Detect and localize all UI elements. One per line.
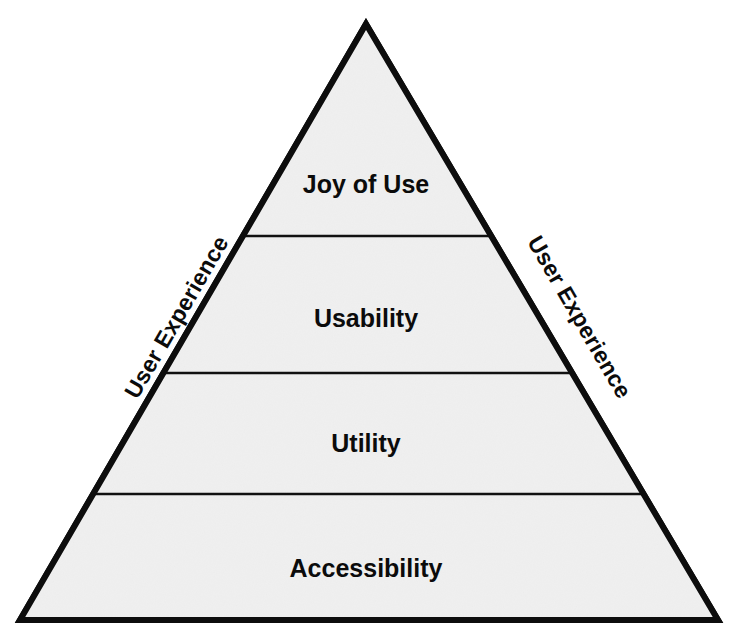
tier-label-joy-of-use: Joy of Use [303, 170, 430, 198]
tier-label-usability: Usability [314, 304, 418, 332]
pyramid-svg-canvas: Joy of Use Usability Utility Accessibili… [0, 0, 738, 642]
pyramid-diagram: Joy of Use Usability Utility Accessibili… [0, 0, 738, 642]
tier-label-accessibility: Accessibility [290, 554, 443, 582]
tier-label-utility: Utility [331, 429, 401, 457]
